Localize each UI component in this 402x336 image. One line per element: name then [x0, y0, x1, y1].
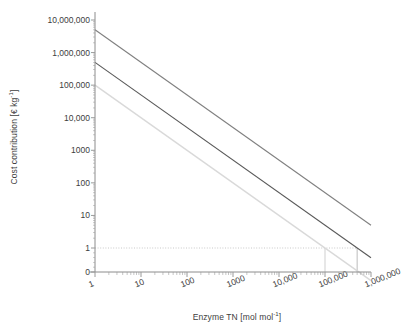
series-line-0 — [95, 30, 371, 225]
series-line-2 — [95, 85, 371, 280]
series-line-1 — [95, 62, 371, 257]
